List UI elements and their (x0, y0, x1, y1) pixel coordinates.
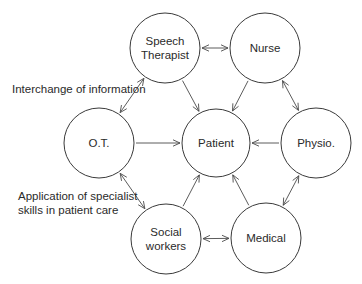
node-label: Speech (145, 35, 184, 47)
node-nurse: Nurse (230, 13, 300, 83)
edge-nurse-to-patient (233, 81, 249, 111)
node-label: workers (145, 240, 187, 252)
node-social: Socialworkers (131, 204, 201, 274)
edge-medical-to-social (203, 235, 229, 242)
edge-ot-to-patient (136, 140, 180, 146)
node-physio: Physio. (281, 108, 351, 178)
node-label: O.T. (88, 137, 109, 149)
edge-physio-to-patient (252, 140, 279, 146)
edge-nurse-to-physio (283, 81, 299, 111)
node-circle (130, 13, 200, 83)
edge-medical-to-patient (233, 175, 249, 205)
edge-physio-to-medical (283, 176, 299, 206)
annotation-text: skills in patient care (18, 204, 118, 216)
nodes: SpeechTherapistNurseO.T.PatientPhysio.So… (64, 13, 351, 274)
annotation-application: Application of specialistskills in patie… (18, 190, 138, 216)
node-label: Nurse (250, 42, 281, 54)
node-speech: SpeechTherapist (130, 13, 200, 83)
annotation-text: Application of specialist (18, 190, 138, 202)
care-team-diagram: SpeechTherapistNurseO.T.PatientPhysio.So… (0, 0, 362, 284)
edge-social-to-patient (183, 175, 199, 206)
annotation-text: Interchange of information (12, 83, 146, 95)
node-label: Patient (198, 137, 235, 149)
node-label: Physio. (297, 137, 335, 149)
node-patient: Patient (182, 109, 250, 177)
node-label: Medical (246, 232, 286, 244)
node-circle (131, 204, 201, 274)
annotation-interchange: Interchange of information (12, 83, 146, 95)
edge-speech-to-patient (183, 81, 199, 112)
node-medical: Medical (231, 203, 301, 273)
node-ot: O.T. (64, 108, 134, 178)
node-label: Social (150, 226, 181, 238)
node-label: Therapist (141, 49, 190, 61)
edge-speech-to-nurse (202, 45, 228, 51)
